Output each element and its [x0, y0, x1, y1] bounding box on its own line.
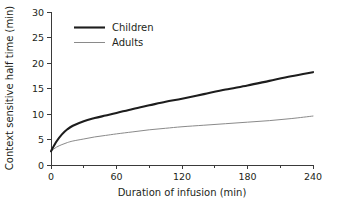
line-chart: 051015202530 060120180240 Children Adult… [0, 0, 341, 203]
y-tick-label: 0 [38, 160, 44, 171]
series-line-adults [51, 116, 313, 151]
x-tick-label: 120 [173, 171, 191, 182]
y-tick-label: 15 [32, 83, 44, 94]
axis-lines [51, 12, 313, 165]
y-tick-label: 5 [38, 134, 44, 145]
y-tick-label: 10 [32, 109, 44, 120]
y-axis-title: Context sensitive half time (min) [4, 6, 15, 170]
x-tick-label: 180 [238, 171, 256, 182]
legend-label-adults: Adults [112, 37, 143, 48]
x-tick-label: 240 [304, 171, 322, 182]
x-axis-ticks: 060120180240 [48, 165, 322, 182]
legend-label-children: Children [112, 22, 154, 33]
x-tick-label: 60 [110, 171, 122, 182]
x-tick-label: 0 [48, 171, 54, 182]
y-tick-label: 25 [32, 32, 44, 43]
series-line-children [51, 72, 313, 151]
y-axis-ticks: 051015202530 [32, 7, 51, 171]
x-axis-title: Duration of infusion (min) [118, 187, 247, 198]
chart-legend: Children Adults [74, 22, 154, 48]
chart-figure: 051015202530 060120180240 Children Adult… [0, 0, 341, 203]
y-tick-label: 20 [32, 58, 44, 69]
y-tick-label: 30 [32, 7, 44, 18]
